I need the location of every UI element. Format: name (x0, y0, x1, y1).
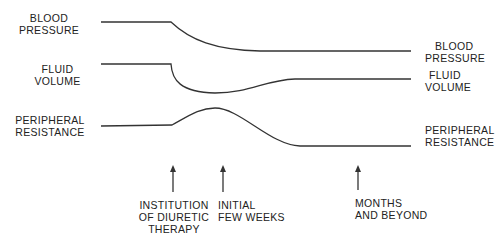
label-fluid-volume-left: FLUIDVOLUME (30, 63, 85, 87)
arrow-icon (220, 165, 226, 192)
arrow-icon (170, 165, 176, 192)
fluid-volume-curve (101, 64, 411, 93)
label-blood-pressure-left: BLOODPRESSURE (18, 12, 80, 36)
label-peripheral-resistance-right: PERIPHERALRESISTANCE (425, 124, 495, 148)
peripheral-resistance-curve (101, 108, 411, 146)
label-blood-pressure-right: BLOODPRESSURE (425, 40, 485, 64)
blood-pressure-curve (101, 22, 411, 51)
arrow-icon (355, 165, 361, 190)
label-peripheral-resistance-left: PERIPHERALRESISTANCE (14, 114, 86, 138)
marker-months-label: MONTHSAND BEYOND (355, 197, 427, 221)
label-fluid-volume-right: FLUIDVOLUME (425, 69, 471, 93)
marker-initial-label: INITIALFEW WEEKS (218, 199, 285, 223)
